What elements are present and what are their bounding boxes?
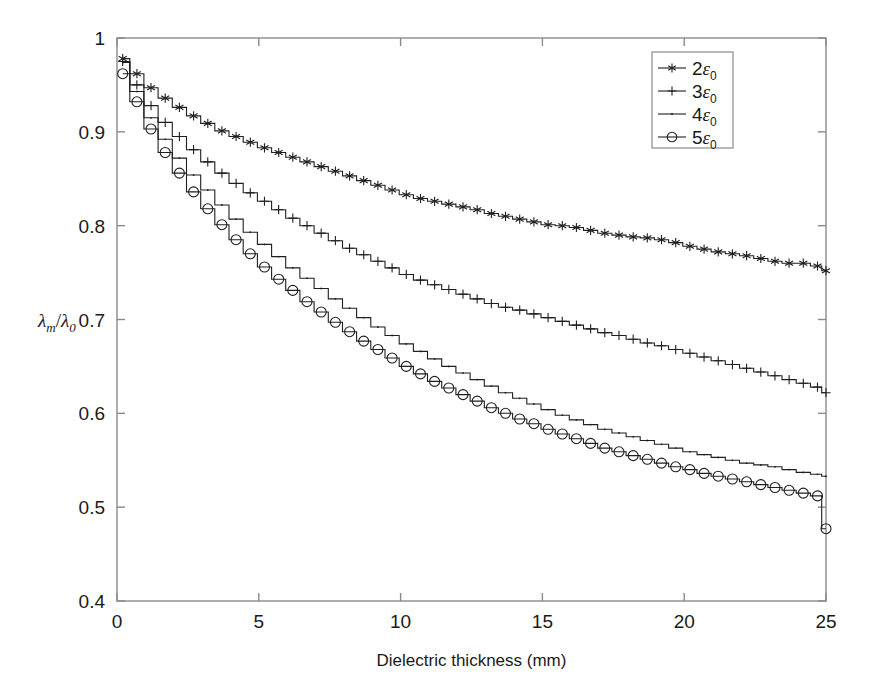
marker-dot <box>278 256 280 258</box>
marker-dot <box>476 379 478 381</box>
marker-dot <box>505 392 507 394</box>
y-label-lambda-m: λ <box>37 310 46 331</box>
marker-dot <box>405 343 407 345</box>
marker-dot <box>717 457 719 459</box>
marker-dot <box>604 428 606 430</box>
figure-background <box>0 0 871 684</box>
marker-dot <box>788 469 790 471</box>
marker-dot <box>264 244 266 246</box>
marker-dot <box>164 138 166 140</box>
marker-dot <box>193 174 195 176</box>
y-tick-label: 0.5 <box>79 497 105 518</box>
marker-dot <box>576 419 578 421</box>
marker-dot <box>420 351 422 353</box>
marker-dot <box>703 454 705 456</box>
x-tick-label: 15 <box>532 611 553 632</box>
marker-dot <box>825 475 827 477</box>
marker-dot <box>675 447 677 449</box>
x-tick-label: 5 <box>254 611 265 632</box>
y-tick-label: 0.7 <box>79 310 105 331</box>
marker-dot <box>179 157 181 159</box>
y-label-sub-0: 0 <box>69 320 76 335</box>
marker-dot <box>519 397 521 399</box>
marker-dot <box>547 409 549 411</box>
marker-dot <box>732 459 734 461</box>
marker-dot <box>391 335 393 337</box>
marker-dot <box>221 204 223 206</box>
marker-dot <box>632 436 634 438</box>
marker-dot <box>590 424 592 426</box>
marker-dot <box>661 443 663 445</box>
marker-dot <box>363 317 365 319</box>
marker-dot <box>646 440 648 442</box>
marker-dot <box>491 385 493 387</box>
x-tick-label: 20 <box>674 611 695 632</box>
marker-dot <box>377 326 379 328</box>
marker-dot <box>760 464 762 466</box>
x-tick-label: 10 <box>390 611 411 632</box>
chart-legend: 2ε03ε04ε05ε0 <box>652 52 733 152</box>
y-tick-label: 1 <box>94 28 105 49</box>
marker-dot <box>434 358 436 360</box>
marker-dot <box>533 403 535 405</box>
legend-label-subscript: 0 <box>710 69 717 83</box>
marker-dot <box>618 432 620 434</box>
x-tick-label: 0 <box>112 611 123 632</box>
marker-dot <box>136 91 138 93</box>
legend-label-subscript: 0 <box>710 115 717 129</box>
marker-dot <box>774 466 776 468</box>
marker-dot <box>335 298 337 300</box>
y-label-sub-m: m <box>46 320 55 335</box>
y-tick-label: 0.8 <box>79 216 105 237</box>
x-axis-label: Dielectric thickness (mm) <box>377 651 567 670</box>
marker-dot <box>561 414 563 416</box>
marker-dot <box>746 462 748 464</box>
marker-dot <box>320 288 322 290</box>
marker-dot <box>122 62 124 64</box>
marker-dot <box>462 372 464 374</box>
marker-dot <box>249 231 251 233</box>
y-tick-label: 0.6 <box>79 403 105 424</box>
legend-label-subscript: 0 <box>710 92 717 106</box>
marker-dot <box>448 366 450 368</box>
marker-dot <box>802 472 804 474</box>
marker-dot <box>689 451 691 453</box>
marker-dot <box>817 473 819 475</box>
y-tick-label: 0.4 <box>79 591 106 612</box>
chart-figure: 0510152025 0.40.50.60.70.80.91 2ε03ε04ε0… <box>0 0 871 684</box>
marker-dot <box>306 277 308 279</box>
marker-dot <box>235 218 237 220</box>
marker-dot <box>349 307 351 309</box>
marker-dot <box>207 189 209 191</box>
marker-dot <box>292 267 294 269</box>
legend-marker-dot <box>671 113 673 115</box>
marker-dot <box>150 117 152 119</box>
legend-label-subscript: 0 <box>710 138 717 152</box>
x-tick-label: 25 <box>815 611 836 632</box>
y-label-lambda-0: λ <box>60 310 69 331</box>
y-tick-label: 0.9 <box>79 122 105 143</box>
